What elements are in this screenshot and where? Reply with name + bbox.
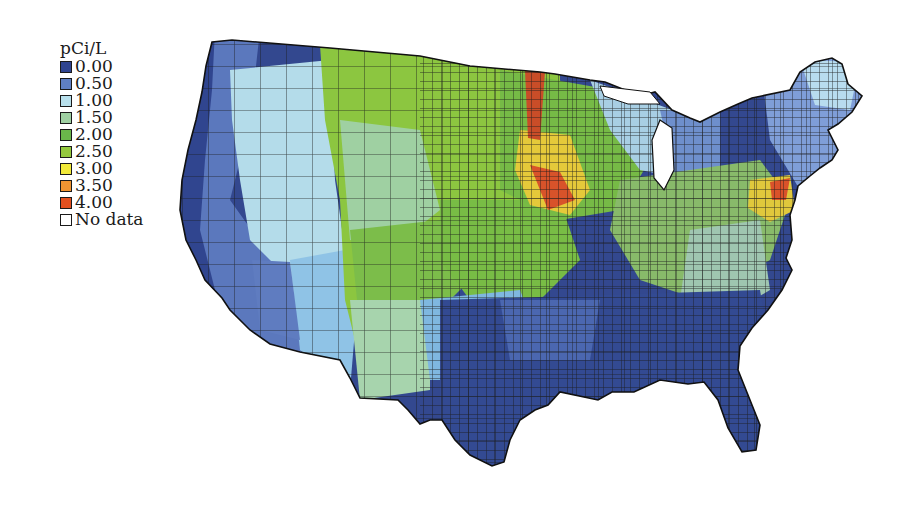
us-radon-map [0, 0, 923, 508]
